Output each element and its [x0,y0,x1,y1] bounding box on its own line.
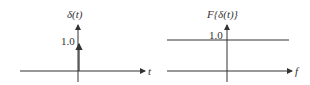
diagram-canvas [0,0,310,85]
right-y-label: F{δ(t)} [207,9,238,20]
right-x-label: f [295,66,298,77]
right-plot [167,25,292,82]
right-value-label: 1.0 [209,30,223,41]
left-plot [20,25,145,82]
left-y-label: δ(t) [67,9,83,20]
left-value-label: 1.0 [61,36,75,47]
left-x-label: t [148,66,151,77]
